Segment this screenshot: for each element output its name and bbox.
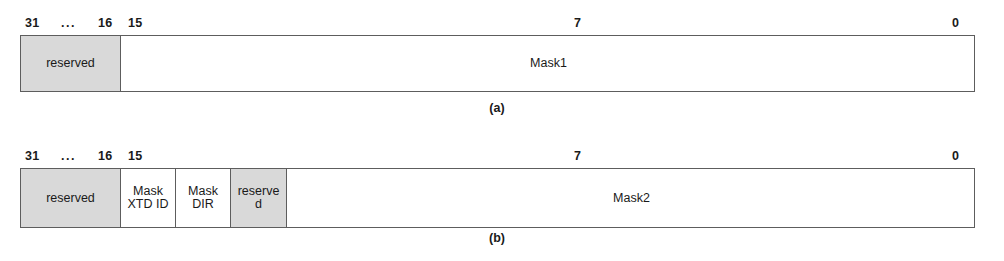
bit-label-31: 31 [25,15,39,31]
register-box-b: reservedMask XTD IDMask DIRreserve dMask… [20,168,975,228]
bit-label-7: 7 [574,15,581,31]
field-mask-xtd-id-label: Mask XTD ID [126,185,171,211]
diagram-caption-a: (a) [467,101,527,115]
field-reserved: reserved [21,169,121,227]
bit-label-16: 16 [98,148,112,164]
bit-label-ellipsis: ... [61,148,76,164]
bit-label-7: 7 [574,148,581,164]
field-reserved: reserved [21,36,121,91]
register-box-a: reservedMask1 [20,35,975,92]
diagram-caption-b: (b) [467,231,527,245]
bit-label-ellipsis: ... [61,15,76,31]
bit-label-0: 0 [952,15,959,31]
field-mask-dir: Mask DIR [176,169,231,227]
bit-label-0: 0 [952,148,959,164]
bit-label-15: 15 [128,148,142,164]
field-mask2: Mask2 [287,169,975,227]
field-mask1-label: Mask1 [528,57,569,70]
bit-number-scale-b: 31...161570 [0,148,1004,164]
bit-number-scale-a: 31...161570 [0,15,1004,31]
bit-label-16: 16 [98,15,112,31]
field-mask1: Mask1 [121,36,975,91]
field-reserved-2-label: reserve d [236,185,282,211]
field-reserved-label: reserved [44,192,97,205]
field-mask-dir-label: Mask DIR [186,185,220,211]
field-reserved-label: reserved [44,57,97,70]
field-reserved-2: reserve d [231,169,287,227]
field-mask-xtd-id: Mask XTD ID [121,169,176,227]
field-mask2-label: Mask2 [611,192,652,205]
bit-label-31: 31 [25,148,39,164]
bit-label-15: 15 [128,15,142,31]
